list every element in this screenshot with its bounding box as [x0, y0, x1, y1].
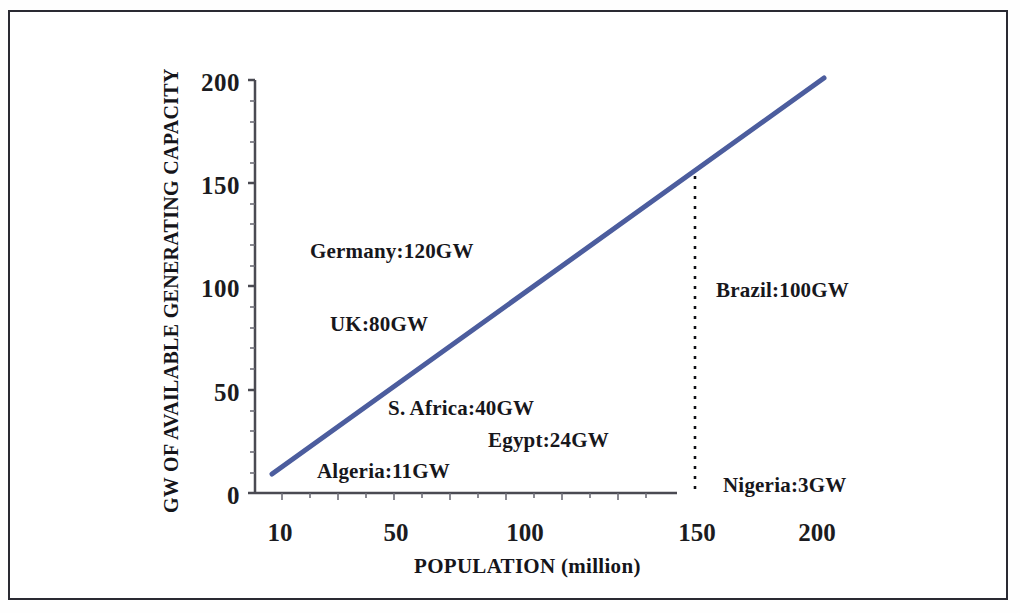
- annotation-germany: Germany:120GW: [310, 241, 474, 262]
- annotation-brazil: Brazil:100GW: [716, 280, 849, 301]
- annotation-nigeria: Nigeria:3GW: [723, 475, 847, 496]
- figure-frame: 200 150 100 50 0 10 50 100 150 200 GW OF…: [8, 10, 1008, 600]
- x-tick-label-150: 150: [662, 520, 732, 545]
- annotation-algeria: Algeria:11GW: [317, 461, 450, 482]
- x-axis-title: POPULATION (million): [414, 556, 641, 577]
- x-tick-label-200: 200: [782, 520, 852, 545]
- x-tick-label-10: 10: [250, 520, 310, 545]
- annotation-egypt: Egypt:24GW: [488, 430, 609, 451]
- x-tick-label-50: 50: [366, 520, 426, 545]
- annotation-south-africa: S. Africa:40GW: [388, 398, 534, 419]
- y-axis-title: GW OF AVAILABLE GENERATING CAPACITY: [161, 68, 181, 513]
- data-line-trend: [272, 78, 824, 474]
- x-tick-label-100: 100: [490, 520, 560, 545]
- annotation-uk: UK:80GW: [330, 314, 428, 335]
- chart-plot-area: 200 150 100 50 0 10 50 100 150 200 GW OF…: [10, 12, 1010, 602]
- scanned-page: 200 150 100 50 0 10 50 100 150 200 GW OF…: [0, 0, 1020, 613]
